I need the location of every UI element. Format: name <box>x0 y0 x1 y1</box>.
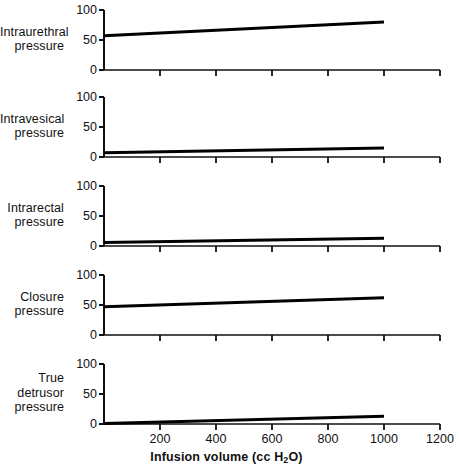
panel-true-detrusor-ylabel-line-1: detrusor <box>0 386 64 401</box>
panel-true-detrusor-ytick-50: 50 <box>64 388 97 401</box>
panel-closure-ytick-0: 0 <box>64 329 97 342</box>
panel-intravesical-ylabel: Intravesicalpressure <box>0 112 64 141</box>
xtick-label-600: 600 <box>242 433 302 446</box>
panel-intravesical-ytick-100: 100 <box>64 91 97 104</box>
panel-intraurethral-ytick-50: 50 <box>64 34 97 47</box>
panel-closure-ylabel-line-1: pressure <box>0 304 64 319</box>
panel-true-detrusor-data-line <box>104 416 384 423</box>
panel-closure-ylabel-line-0: Closure <box>0 290 64 305</box>
panel-intraurethral-ylabel: Intraurethralpressure <box>0 25 64 54</box>
panel-intraurethral-data-line <box>104 22 384 36</box>
panel-intrarectal-ylabel-line-0: Intrarectal <box>0 201 64 216</box>
panel-intravesical-ytick-0: 0 <box>64 151 97 164</box>
xtick-label-400: 400 <box>186 433 246 446</box>
panel-intrarectal-ytick-100: 100 <box>64 180 97 193</box>
panel-intravesical-ylabel-line-0: Intravesical <box>0 112 64 127</box>
panel-true-detrusor-ylabel: Truedetrusorpressure <box>0 371 64 415</box>
x-axis-title-prefix: Infusion volume (cc H <box>150 450 283 464</box>
panel-intrarectal-ylabel-line-1: pressure <box>0 215 64 230</box>
xtick-label-200: 200 <box>130 433 190 446</box>
panel-intraurethral-ylabel-line-0: Intraurethral <box>0 25 64 40</box>
x-axis-title: Infusion volume (cc H2O) <box>0 450 453 464</box>
panel-intrarectal-ylabel: Intrarectalpressure <box>0 201 64 230</box>
panel-intrarectal-ytick-0: 0 <box>64 240 97 253</box>
panel-intravesical-ylabel-line-1: pressure <box>0 126 64 141</box>
xtick-label-1000: 1000 <box>354 433 414 446</box>
panel-true-detrusor-ytick-0: 0 <box>64 418 97 431</box>
panel-intrarectal-data-line <box>104 238 384 242</box>
panel-intraurethral-ylabel-line-1: pressure <box>0 39 64 54</box>
panel-closure-ytick-50: 50 <box>64 299 97 312</box>
panel-true-detrusor-ytick-100: 100 <box>64 358 97 371</box>
panel-closure-ytick-100: 100 <box>64 269 97 282</box>
panel-closure-ylabel: Closurepressure <box>0 290 64 319</box>
panel-intrarectal-ytick-50: 50 <box>64 210 97 223</box>
x-axis-title-subscript: 2 <box>283 455 288 465</box>
panel-intraurethral-ytick-100: 100 <box>64 4 97 17</box>
x-axis-title-suffix: O) <box>289 450 303 464</box>
panel-intravesical-data-line <box>104 148 384 153</box>
panel-true-detrusor-ylabel-line-2: pressure <box>0 400 64 415</box>
xtick-label-800: 800 <box>298 433 358 446</box>
panel-closure-data-line <box>104 298 384 307</box>
panel-true-detrusor-ylabel-line-0: True <box>0 371 64 386</box>
xtick-label-1200: 1200 <box>410 433 459 446</box>
panel-intravesical-ytick-50: 50 <box>64 121 97 134</box>
panel-intraurethral-ytick-0: 0 <box>64 64 97 77</box>
